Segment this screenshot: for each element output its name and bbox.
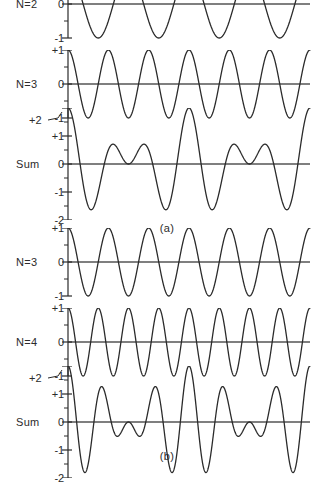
- ytick-label-zero: 0: [42, 78, 64, 90]
- ytick-label-zero: 0: [42, 416, 64, 428]
- ytick-label-zero: 0: [42, 256, 64, 268]
- ytick-label-zero: 0: [42, 336, 64, 348]
- ytick-label-plus2: +2: [29, 114, 42, 126]
- ytick-label-minus1: -1: [42, 32, 64, 44]
- ytick-label-minus2: -2: [42, 472, 64, 484]
- plot-panel-n2: N=2 +1 0 -1: [0, 0, 334, 46]
- figure-root: N=2 +1 0 -1 N=3 +1 0 -1 Sum +2 +1 0 -1 -…: [0, 0, 334, 488]
- plot-panel-sum: Sum +2 +1 0 -1 -2: [0, 108, 334, 220]
- ytick-label-plus1: +1: [42, 222, 64, 234]
- ytick-label-minus1: -1: [42, 290, 64, 302]
- plot-panel-n3: N=3 +1 0 -1: [0, 228, 334, 304]
- ytick-label-plus1: +1: [42, 130, 64, 142]
- ytick-label-plus2: +2: [29, 372, 42, 384]
- ytick-label-zero: 0: [42, 158, 64, 170]
- ytick-label-plus1: +1: [42, 388, 64, 400]
- ytick-label-plus1: +1: [42, 44, 64, 56]
- figure-group-b: N=3 +1 0 -1 N=4 +1 0 -1 Sum +2 +1 0 -1 -…: [0, 228, 334, 488]
- ytick-label-zero: 0: [42, 0, 64, 10]
- ytick-label-plus1: +1: [42, 302, 64, 314]
- caption-b: (b): [0, 450, 334, 462]
- figure-group-a: N=2 +1 0 -1 N=3 +1 0 -1 Sum +2 +1 0 -1 -…: [0, 0, 334, 230]
- ytick-label-minus1: -1: [42, 186, 64, 198]
